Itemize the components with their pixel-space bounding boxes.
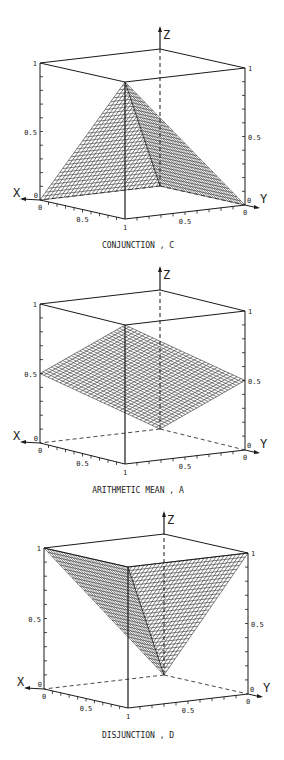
box-edge <box>40 304 125 325</box>
y-tick-label: 0.5 <box>182 707 195 715</box>
surface-mesh <box>44 548 248 675</box>
mesh-line <box>97 341 217 397</box>
y-tick-label: 0.5 <box>179 218 192 226</box>
box-edge <box>40 290 160 304</box>
z-arrowhead-icon <box>158 26 162 32</box>
mesh-line <box>60 334 145 383</box>
surface-fold <box>125 82 160 186</box>
box-edge <box>125 311 245 325</box>
z-axis-label: Z <box>163 268 170 282</box>
y-axis-label: Y <box>260 192 268 206</box>
y-tick-label: 0.5 <box>179 463 192 471</box>
mesh-line <box>125 325 245 381</box>
plot-title: ARITHMETIC MEAN , A <box>92 486 184 495</box>
y-axis-label: Y <box>263 681 271 695</box>
x-tick-label: 0 <box>38 204 42 212</box>
z-tick-label: 0.5 <box>24 371 37 379</box>
x-axis-label: X <box>17 675 25 689</box>
x-arrowhead-icon <box>24 686 30 690</box>
y-tick-label: 0 <box>246 698 250 706</box>
plot-3: ZXY10.5010.5000.510.50DISJUNCTION , D <box>17 511 271 740</box>
mesh-line <box>48 552 132 570</box>
mesh-line <box>111 99 231 202</box>
z-arrowhead-icon <box>158 266 162 272</box>
mesh-line <box>119 328 239 384</box>
x-arrowhead-icon <box>20 197 26 201</box>
mesh-line <box>111 333 231 389</box>
x-tick-label: 0 <box>42 693 46 701</box>
mesh-line <box>105 336 225 392</box>
z-tick-label: 1 <box>37 545 41 553</box>
mesh-line <box>114 332 234 388</box>
z-tick-label: 1 <box>248 308 252 316</box>
surface-plots: ZXY10.5010.5000.510.50CONJUNCTION , CZXY… <box>0 0 284 760</box>
x-tick-label: 0.5 <box>76 216 89 224</box>
z-tick-label: 0.5 <box>248 378 261 386</box>
x-tick-label: 0.5 <box>76 460 89 468</box>
mesh-line <box>122 327 242 383</box>
mesh-line <box>91 344 211 400</box>
box-edge <box>164 534 248 553</box>
z-tick-label: 1 <box>33 301 37 309</box>
mesh-line <box>52 331 137 380</box>
x-tick-label: 0.5 <box>80 705 93 713</box>
box-edge <box>44 534 164 548</box>
x-axis-label: X <box>13 186 21 200</box>
plot-title: DISJUNCTION , D <box>102 731 174 740</box>
mesh-line <box>125 557 245 571</box>
z-tick-label: 0 <box>38 681 42 689</box>
plot-2: ZXY10.5010.5000.510.50ARITHMETIC MEAN , … <box>13 266 268 495</box>
z-arrowhead-icon <box>162 511 166 517</box>
y-tick-label: 0 <box>243 209 247 217</box>
plot-title: CONJUNCTION , C <box>102 241 174 250</box>
box-edge <box>40 49 160 63</box>
z-tick-label: 0.5 <box>251 621 264 629</box>
mesh-line <box>94 343 214 399</box>
hidden-edge <box>44 675 164 689</box>
x-tick-label: 1 <box>123 224 127 232</box>
z-axis-label: Z <box>167 513 174 527</box>
z-tick-label: 0 <box>250 686 254 694</box>
box-edge <box>40 63 125 82</box>
z-tick-label: 0 <box>247 197 251 205</box>
mesh-line <box>102 338 222 394</box>
z-tick-label: 1 <box>248 65 252 73</box>
x-arrowhead-icon <box>20 440 26 444</box>
y-tick-label: 0 <box>243 454 247 462</box>
plot-1: ZXY10.5010.5000.510.50CONJUNCTION , C <box>13 26 268 250</box>
z-axis-label: Z <box>163 28 170 42</box>
mesh-line <box>108 335 228 391</box>
z-tick-label: 0.5 <box>248 134 261 142</box>
mesh-line <box>44 86 129 200</box>
box-edge <box>160 290 245 311</box>
y-axis-label: Y <box>260 437 268 451</box>
hidden-edge <box>160 429 245 450</box>
mesh-line <box>88 346 208 402</box>
x-axis-label: X <box>13 429 21 443</box>
z-tick-label: 0.5 <box>28 616 41 624</box>
x-tick-label: 1 <box>126 713 130 721</box>
x-tick-label: 1 <box>123 469 127 477</box>
z-tick-label: 0 <box>34 192 38 200</box>
z-tick-label: 1 <box>33 60 37 68</box>
z-tick-label: 1 <box>251 550 255 558</box>
box-edge <box>125 68 245 82</box>
z-tick-label: 0 <box>247 442 251 450</box>
z-tick-label: 0 <box>34 435 38 443</box>
fuzzy-operators-figure: ZXY10.5010.5000.510.50CONJUNCTION , CZXY… <box>0 0 284 760</box>
z-tick-label: 0.5 <box>24 129 37 137</box>
mesh-line <box>85 348 205 404</box>
surface-mesh <box>40 325 245 429</box>
hidden-edge <box>164 675 248 694</box>
mesh-line <box>61 552 181 654</box>
mesh-line <box>44 327 129 376</box>
hidden-edge <box>40 429 160 443</box>
mesh-line <box>117 330 237 385</box>
x-tick-label: 0 <box>38 447 42 455</box>
box-edge <box>160 49 245 68</box>
surface-mesh <box>40 82 245 205</box>
